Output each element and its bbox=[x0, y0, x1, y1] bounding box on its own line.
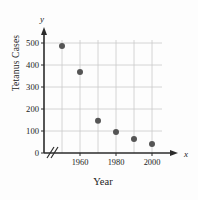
y-tick-label: 300 bbox=[26, 82, 39, 92]
y-axis-arrowhead bbox=[41, 27, 47, 35]
x-axis-tick-labels: 196019802000 bbox=[72, 153, 161, 167]
y-axis-tick-labels: 0100200300400500 bbox=[26, 38, 44, 158]
data-point bbox=[131, 136, 137, 142]
y-tick-label: 500 bbox=[26, 38, 39, 48]
chart-figure: Tetanus Cases Year 0100200300400500 1960… bbox=[0, 0, 198, 200]
vertical-gridlines bbox=[62, 40, 152, 153]
scatter-plot-canvas: 0100200300400500 196019802000 y x bbox=[0, 0, 198, 200]
x-tick-label: 1980 bbox=[108, 158, 125, 167]
y-tick-label: 100 bbox=[26, 126, 39, 136]
x-tick-label: 1960 bbox=[72, 158, 89, 167]
data-point bbox=[149, 141, 155, 147]
data-point bbox=[113, 129, 119, 135]
y-tick-label: 0 bbox=[35, 148, 39, 158]
y-tick-label: 200 bbox=[26, 104, 39, 114]
x-tick-label: 2000 bbox=[144, 158, 161, 167]
y-tick-label: 400 bbox=[26, 60, 39, 70]
x-axis-arrowhead bbox=[170, 150, 178, 156]
y-axis-variable-label: y bbox=[39, 14, 44, 24]
data-point bbox=[77, 69, 83, 75]
data-point bbox=[59, 43, 65, 49]
data-point bbox=[95, 118, 101, 124]
x-axis-variable-label: x bbox=[183, 149, 188, 159]
